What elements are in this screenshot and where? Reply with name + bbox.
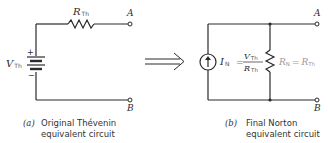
caption-b-tag: (b)	[225, 118, 237, 128]
in-label: IN	[219, 56, 229, 67]
terminal-a-icon	[315, 22, 319, 26]
terminal-a-label: A	[313, 8, 321, 18]
terminal-b-label: B	[313, 103, 321, 113]
thevenin-norton-diagram: RTh A B + − VTh (a) Original Thévenin eq…	[0, 0, 328, 143]
vth-label: VTh	[6, 58, 22, 69]
equals-sign: =	[236, 57, 244, 67]
caption-a-line2: equivalent circuit	[41, 129, 115, 139]
terminal-b-icon	[128, 98, 132, 102]
caption-b-line2: equivalent circuit	[246, 129, 320, 139]
caption-b-line1: Final Norton	[246, 118, 297, 128]
resistor-rn-icon	[266, 50, 274, 72]
rn-eq-label: RN=RTh	[278, 57, 316, 67]
plus-sign: +	[27, 48, 34, 57]
terminal-b-label: B	[126, 103, 134, 113]
norton-circuit: IN = VTh RTh RN=RTh A B (b) Final Norton…	[200, 8, 321, 139]
thevenin-circuit: RTh A B + − VTh (a) Original Thévenin eq…	[6, 6, 134, 139]
frac-numerator: VTh	[244, 52, 258, 61]
terminal-b-icon	[315, 98, 319, 102]
caption-a-tag: (a)	[23, 118, 35, 128]
transform-arrow-icon	[145, 53, 184, 70]
current-source-icon	[200, 54, 216, 70]
terminal-a-label: A	[126, 8, 134, 18]
terminal-a-icon	[128, 22, 132, 26]
caption-a-line1: Original Thévenin	[41, 118, 116, 128]
minus-sign: −	[28, 71, 35, 80]
junction-dot	[268, 22, 271, 25]
frac-denominator: RTh	[243, 64, 258, 73]
battery-icon	[27, 57, 45, 69]
rth-label: RTh	[72, 6, 89, 17]
resistor-rth-icon	[68, 20, 94, 28]
junction-dot	[268, 98, 271, 101]
